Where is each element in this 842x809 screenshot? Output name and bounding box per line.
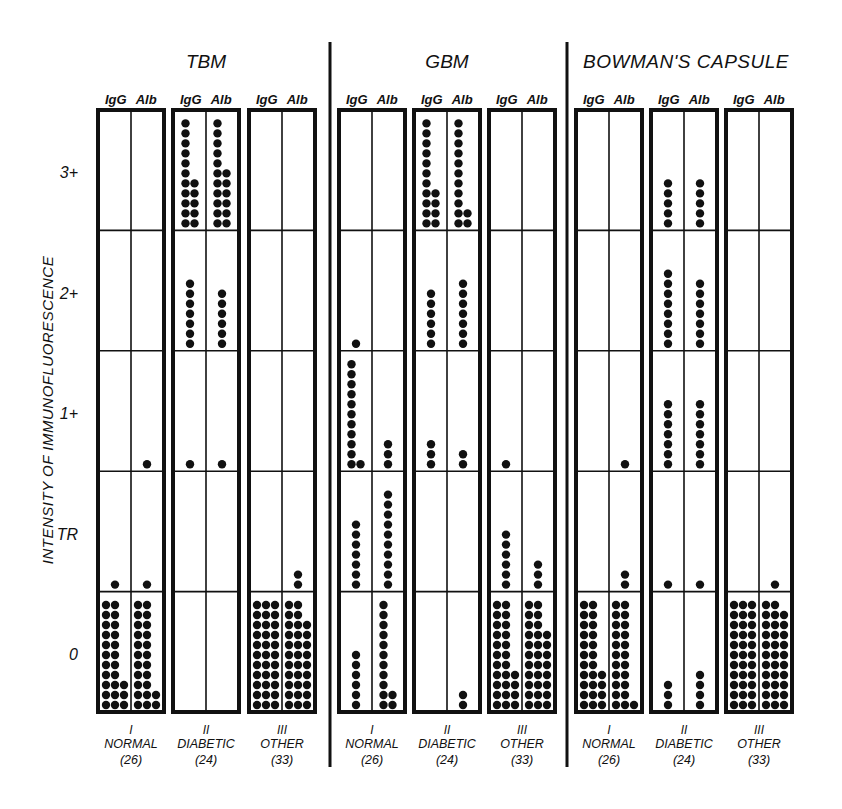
case-dot — [222, 199, 230, 207]
case-dot — [218, 320, 226, 328]
case-dot — [730, 651, 738, 659]
case-dot — [181, 169, 189, 177]
group-box-tbm-normal: IgGAlbINORMAL(26) — [98, 92, 164, 767]
group-numeral: III — [277, 723, 288, 737]
case-dot — [696, 320, 704, 328]
stain-header-alb: Alb — [763, 92, 785, 107]
case-dot — [352, 550, 360, 558]
case-dot — [621, 631, 629, 639]
case-dot — [379, 671, 387, 679]
case-dot — [384, 450, 392, 458]
case-dot — [102, 621, 110, 629]
case-dot — [253, 691, 261, 699]
stain-header-alb: Alb — [613, 92, 635, 107]
case-dot — [262, 631, 270, 639]
case-dot — [543, 631, 551, 639]
case-dot — [748, 611, 756, 619]
case-dot — [454, 169, 462, 177]
case-dot — [612, 681, 620, 689]
case-dot — [589, 641, 597, 649]
case-dot — [511, 691, 519, 699]
case-dot — [621, 701, 629, 709]
case-dot — [422, 179, 430, 187]
case-dot — [422, 189, 430, 197]
case-dot — [262, 641, 270, 649]
case-dot — [262, 621, 270, 629]
case-dot — [589, 701, 597, 709]
case-dot — [347, 380, 355, 388]
case-dot — [739, 691, 747, 699]
case-dot — [664, 681, 672, 689]
case-dot — [730, 671, 738, 679]
case-dot — [664, 701, 672, 709]
case-dot — [271, 641, 279, 649]
case-dot — [143, 601, 151, 609]
case-dot — [748, 601, 756, 609]
panel-title-gbm: GBM — [425, 51, 468, 72]
case-dot — [347, 400, 355, 408]
case-dot — [748, 641, 756, 649]
case-dot — [271, 611, 279, 619]
case-dot — [696, 179, 704, 187]
plot-area: IgGAlbINORMAL(26)IgGAlbIIDIABETIC(24)IgG… — [98, 92, 792, 767]
case-dot — [384, 520, 392, 528]
case-dot — [762, 701, 770, 709]
case-dot — [262, 681, 270, 689]
group-n: (26) — [120, 753, 142, 767]
case-dot — [534, 661, 542, 669]
case-dot — [379, 681, 387, 689]
group-n: (26) — [361, 753, 383, 767]
case-dot — [253, 641, 261, 649]
case-dot — [493, 641, 501, 649]
case-dot — [285, 641, 293, 649]
case-dot — [253, 681, 261, 689]
case-dot — [262, 651, 270, 659]
case-dot — [379, 661, 387, 669]
case-dot — [780, 621, 788, 629]
case-dot — [294, 641, 302, 649]
case-dot — [427, 340, 435, 348]
case-dot — [739, 631, 747, 639]
case-dot — [696, 691, 704, 699]
case-dot — [459, 300, 467, 308]
case-dot — [111, 611, 119, 619]
case-dot — [285, 701, 293, 709]
case-dot — [580, 701, 588, 709]
case-dot — [379, 691, 387, 699]
case-dot — [664, 179, 672, 187]
group-n: (33) — [511, 753, 533, 767]
case-dot — [771, 621, 779, 629]
case-dot — [422, 199, 430, 207]
case-dot — [111, 661, 119, 669]
case-dot — [534, 691, 542, 699]
case-dot — [285, 611, 293, 619]
case-dot — [739, 661, 747, 669]
case-dot — [696, 290, 704, 298]
case-dot — [459, 701, 467, 709]
case-dot — [696, 410, 704, 418]
group-numeral: II — [681, 723, 688, 737]
case-dot — [502, 460, 510, 468]
case-dot — [780, 651, 788, 659]
case-dot — [152, 691, 160, 699]
case-dot — [384, 490, 392, 498]
case-dot — [664, 320, 672, 328]
case-dot — [143, 701, 151, 709]
stain-header-alb: Alb — [451, 92, 473, 107]
case-dot — [664, 410, 672, 418]
case-dot — [111, 580, 119, 588]
case-dot — [543, 681, 551, 689]
group-box-bowman-s-capsule-diabetic: IgGAlbIIDIABETIC(24) — [651, 92, 717, 767]
case-dot — [534, 570, 542, 578]
case-dot — [621, 580, 629, 588]
case-dot — [696, 580, 704, 588]
case-dot — [186, 310, 194, 318]
case-dot — [696, 430, 704, 438]
case-dot — [285, 601, 293, 609]
case-dot — [427, 310, 435, 318]
case-dot — [580, 651, 588, 659]
case-dot — [664, 691, 672, 699]
case-dot — [352, 540, 360, 548]
case-dot — [543, 701, 551, 709]
group-box-tbm-diabetic: IgGAlbIIDIABETIC(24) — [173, 92, 239, 767]
